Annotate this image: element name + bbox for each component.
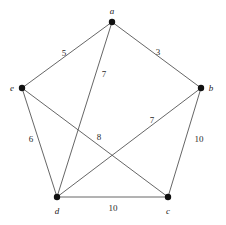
graph-node-c bbox=[165, 194, 171, 200]
edge-weight-a-b: 3 bbox=[156, 48, 161, 57]
graph-node-e bbox=[19, 85, 25, 91]
edge-weight-a-d: 7 bbox=[102, 70, 107, 79]
edge-weight-d-c: 10 bbox=[109, 204, 118, 213]
graph-node-d bbox=[54, 194, 60, 200]
graph-canvas bbox=[0, 0, 226, 225]
node-label-d: d bbox=[55, 207, 60, 216]
node-label-e: e bbox=[10, 84, 14, 93]
node-label-b: b bbox=[209, 84, 214, 93]
edge-weight-b-c: 10 bbox=[195, 135, 204, 144]
graph-node-a bbox=[109, 19, 115, 25]
graph-node-b bbox=[198, 85, 204, 91]
node-layer bbox=[19, 19, 204, 200]
edge-weight-e-d: 6 bbox=[29, 135, 34, 144]
graph-edge-e-c bbox=[22, 88, 168, 197]
edge-weight-e-c: 8 bbox=[97, 133, 102, 142]
graph-edge-a-e bbox=[22, 22, 112, 88]
edge-layer bbox=[22, 22, 201, 197]
node-label-a: a bbox=[110, 7, 115, 16]
weighted-graph-figure: 5376871010abcde bbox=[0, 0, 226, 225]
edge-weight-d-b: 7 bbox=[150, 116, 155, 125]
graph-edge-e-d bbox=[22, 88, 57, 197]
node-label-c: c bbox=[166, 207, 170, 216]
edge-weight-a-e: 5 bbox=[62, 49, 67, 58]
graph-edge-d-b bbox=[57, 88, 201, 197]
